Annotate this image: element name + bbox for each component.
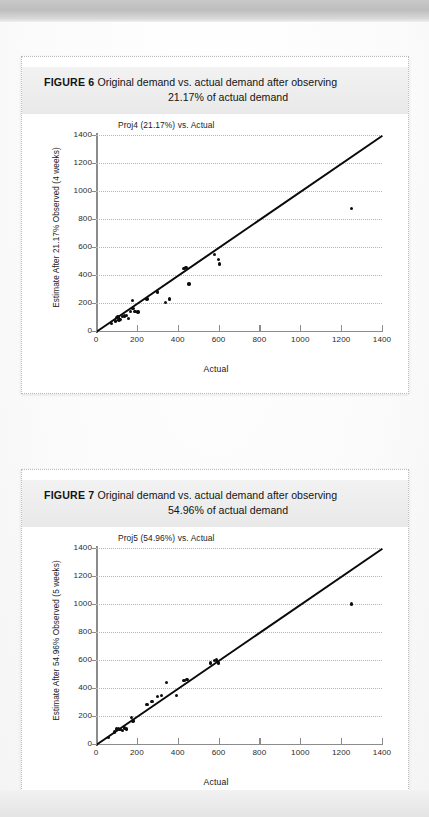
x-tick-label: 1200 [321,748,361,757]
data-point [145,297,148,300]
x-tick-mark [96,738,97,745]
y-tick-mark [91,716,96,717]
data-point [107,736,110,739]
figure-6-y-axis-label-holder: Estimate After 21.17% Observed (4 weeks) [26,119,40,329]
y-tick-mark [91,303,96,304]
figure-7-chart-title: Proj5 (54.96%) vs. Actual [118,533,215,543]
figure-6-chart-title: Proj4 (21.17%) vs. Actual [118,120,215,130]
figure-card-7: FIGURE 7 Original demand vs. actual dema… [21,469,409,807]
gridline [96,660,382,661]
x-tick-mark [96,325,97,332]
data-point [129,310,132,313]
gridline [96,548,382,549]
y-tick-label: 600 [58,655,92,664]
y-tick-label: 1400 [58,543,92,552]
x-tick-label: 600 [199,748,239,757]
x-tick-label: 1000 [280,335,320,344]
data-point [136,310,139,313]
y-tick-mark [91,688,96,689]
x-tick-mark [382,325,383,332]
x-tick-label: 200 [117,335,157,344]
data-point [175,694,178,697]
y-tick-label: 0 [58,326,92,335]
y-tick-mark [91,163,96,164]
y-tick-label: 200 [58,298,92,307]
data-point [209,661,212,664]
data-point [184,266,187,269]
x-tick-label: 800 [239,748,279,757]
x-tick-mark [341,738,342,745]
y-tick-mark [91,744,96,745]
x-tick-label: 800 [239,335,279,344]
y-tick-mark [91,660,96,661]
x-tick-mark [300,325,301,332]
data-point [113,730,116,733]
figure-card-6: FIGURE 6 Original demand vs. actual dema… [21,56,409,394]
data-point [217,661,220,664]
x-tick-label: 0 [76,335,116,344]
x-tick-label: 1000 [280,748,320,757]
data-point [118,318,121,321]
x-tick-label: 200 [117,748,157,757]
data-point [156,290,159,293]
y-tick-label: 1200 [58,571,92,580]
data-point [145,703,148,706]
x-tick-mark [178,325,179,332]
y-tick-mark [91,576,96,577]
y-tick-label: 400 [58,683,92,692]
scan-top-bar [0,0,429,22]
data-point [156,695,159,698]
figure-6-caption-band: FIGURE 6 Original demand vs. actual dema… [22,67,408,114]
y-tick-label: 800 [58,214,92,223]
gridline [96,275,382,276]
x-tick-mark [219,325,220,332]
figure-6-caption-line1: Original demand vs. actual demand after … [97,76,337,88]
y-tick-label: 1000 [58,186,92,195]
y-tick-mark [91,331,96,332]
x-tick-mark [259,325,260,332]
figure-6-plot-area [96,135,382,331]
y-tick-label: 1200 [58,158,92,167]
y-tick-label: 800 [58,627,92,636]
figure-7-caption: FIGURE 7 Original demand vs. actual dema… [42,488,388,518]
x-tick-label: 400 [158,748,198,757]
gridline [96,688,382,689]
data-point [187,282,190,285]
x-tick-label: 1400 [362,748,402,757]
figure-6-caption: FIGURE 6 Original demand vs. actual dema… [42,75,388,105]
y-tick-label: 0 [58,739,92,748]
x-tick-label: 0 [76,748,116,757]
x-tick-label: 600 [199,335,239,344]
x-tick-mark [219,738,220,745]
figure-6-y-ticks: 0200400600800100012001400 [56,119,92,331]
y-tick-mark [91,275,96,276]
y-tick-mark [91,604,96,605]
figure-7-x-axis-line [95,744,383,745]
y-tick-label: 200 [58,711,92,720]
y-tick-mark [91,548,96,549]
figure-6-caption-line2: 21.17% of actual demand [42,90,388,105]
y-tick-mark [91,247,96,248]
gridline [96,604,382,605]
figure-7-x-axis-label: Actual [22,777,410,787]
data-point [110,322,113,325]
y-tick-label: 1400 [58,130,92,139]
y-tick-mark [91,191,96,192]
data-point [218,262,221,265]
figure-7-caption-band: FIGURE 7 Original demand vs. actual dema… [22,480,408,527]
data-point [350,602,353,605]
data-point [127,317,130,320]
x-tick-mark [259,738,260,745]
y-tick-label: 400 [58,270,92,279]
document-page-surface: FIGURE 6 Original demand vs. actual dema… [0,22,429,817]
figure-7-y-ticks: 0200400600800100012001400 [56,532,92,744]
x-tick-label: 1200 [321,335,361,344]
data-point [165,681,168,684]
figure-6-chart: Proj4 (21.17%) vs. Actual Estimate After… [22,119,410,391]
y-tick-mark [91,135,96,136]
data-point [131,719,134,722]
x-tick-label: 1400 [362,335,402,344]
x-tick-mark [382,738,383,745]
x-tick-label: 400 [158,335,198,344]
data-point [125,727,128,730]
